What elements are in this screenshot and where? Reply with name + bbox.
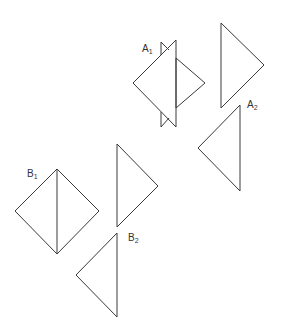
triangle-a2 — [198, 105, 240, 191]
a1-back-shape-bottom — [161, 112, 169, 127]
label-a1-sub: 1 — [149, 48, 153, 55]
triangle-b2 — [76, 233, 117, 317]
a1-left-triangle — [133, 40, 176, 127]
label-b2: B2 — [128, 233, 139, 244]
label-b2-main: B — [128, 232, 135, 243]
label-a2-sub: 2 — [254, 104, 258, 111]
label-b1-main: B — [27, 168, 34, 179]
label-b1-sub: 1 — [34, 173, 38, 180]
label-b1: B1 — [27, 169, 38, 180]
figure-b1 — [15, 169, 99, 254]
label-a2: A2 — [247, 100, 258, 111]
triangle-middle — [117, 144, 158, 227]
label-b2-sub: 2 — [135, 237, 139, 244]
a1-back-shape-top — [161, 42, 169, 55]
a1-right-triangle — [176, 58, 205, 108]
label-a2-main: A — [247, 99, 254, 110]
triangle-top-right — [221, 23, 264, 108]
label-a1: A1 — [142, 44, 153, 55]
label-a1-main: A — [142, 43, 149, 54]
